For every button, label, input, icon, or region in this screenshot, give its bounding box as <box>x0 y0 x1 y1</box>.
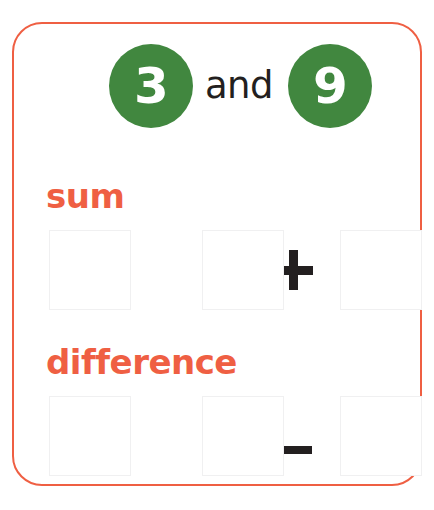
sum-equals-operator <box>282 228 340 308</box>
difference-operand-b-box[interactable] <box>202 396 284 476</box>
sum-result-box[interactable] <box>340 230 422 310</box>
number-circle-first: 3 <box>109 44 193 128</box>
minus-operator <box>137 394 201 474</box>
worksheet-card: 3 and 9 sum difference <box>12 22 422 486</box>
and-label: and <box>190 62 288 110</box>
number-circle-second: 9 <box>288 44 372 128</box>
difference-operand-a-box[interactable] <box>49 396 131 476</box>
equation-row-difference <box>14 394 420 484</box>
equation-row-sum <box>14 228 420 318</box>
sum-operand-a-box[interactable] <box>49 230 131 310</box>
section-label-sum: sum <box>46 176 124 216</box>
sum-operand-b-box[interactable] <box>202 230 284 310</box>
difference-equals-operator <box>282 394 340 474</box>
difference-result-box[interactable] <box>340 396 422 476</box>
numbers-row: 3 and 9 <box>14 44 420 130</box>
section-label-difference: difference <box>46 342 237 382</box>
plus-operator <box>137 228 201 308</box>
